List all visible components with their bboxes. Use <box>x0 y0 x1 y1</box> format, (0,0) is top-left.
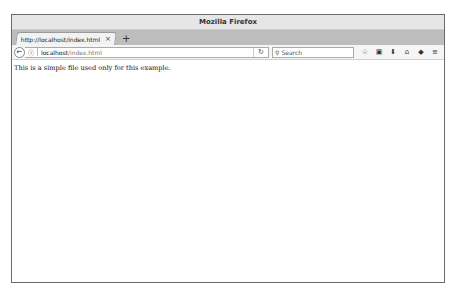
reading-list-icon[interactable]: ▣ <box>372 48 386 56</box>
toolbar-icons: ☆ ▣ ⬇ ⌂ ◆ ≡ <box>358 48 442 56</box>
menu-icon[interactable]: ≡ <box>428 48 442 56</box>
tab-localhost[interactable]: http://localhost/index.html × <box>15 32 117 45</box>
close-tab-icon[interactable]: × <box>105 35 111 43</box>
url-separator <box>37 48 38 56</box>
page-text: This is a simple file used only for this… <box>14 64 171 72</box>
search-placeholder: Search <box>281 49 302 56</box>
new-tab-button[interactable]: + <box>122 32 130 45</box>
back-arrow-icon: ← <box>17 48 23 56</box>
site-info-icon[interactable]: ⓘ <box>28 48 34 57</box>
browser-window: Mozilla Firefox http://localhost/index.h… <box>11 14 445 283</box>
downloads-icon[interactable]: ⬇ <box>386 48 400 56</box>
search-input[interactable]: ⚲ Search <box>272 47 354 58</box>
bookmark-star-icon[interactable]: ☆ <box>358 48 372 56</box>
reload-button[interactable]: ↻ <box>253 48 268 57</box>
tab-label: http://localhost/index.html <box>21 36 102 43</box>
page-content: This is a simple file used only for this… <box>12 60 444 76</box>
search-icon: ⚲ <box>275 49 279 56</box>
navigation-bar: ← ⓘ localhost/index.html ↻ ⚲ Search ☆ ▣ … <box>12 45 444 60</box>
url-path: /index.html <box>68 49 102 56</box>
url-host: localhost <box>41 49 68 56</box>
reload-icon: ↻ <box>258 48 264 56</box>
back-button[interactable]: ← <box>14 47 25 58</box>
pocket-icon[interactable]: ◆ <box>414 48 428 56</box>
title-bar: Mozilla Firefox <box>12 15 444 30</box>
url-bar[interactable]: ⓘ localhost/index.html ↻ <box>25 47 269 58</box>
window-title: Mozilla Firefox <box>199 18 257 26</box>
home-icon[interactable]: ⌂ <box>400 48 414 56</box>
tab-strip: http://localhost/index.html × + <box>12 30 444 45</box>
